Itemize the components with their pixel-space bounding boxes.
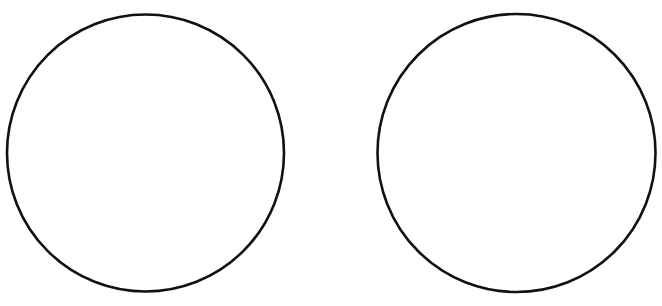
- left-circle: [7, 15, 284, 292]
- diagram-canvas: [0, 0, 662, 306]
- right-circle: [378, 14, 656, 292]
